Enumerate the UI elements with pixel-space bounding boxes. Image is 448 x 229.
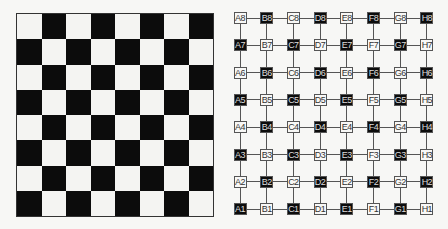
graph-node: E6 bbox=[340, 67, 353, 79]
graph-node: D1 bbox=[314, 203, 327, 215]
board-square bbox=[140, 191, 165, 216]
graph-node: H2 bbox=[420, 176, 433, 188]
graph-node: F1 bbox=[367, 203, 380, 215]
board-square bbox=[42, 14, 67, 39]
graph-node: A8 bbox=[234, 12, 247, 24]
graph-node: F6 bbox=[367, 67, 380, 79]
board-square bbox=[115, 166, 140, 191]
graph-node: F4 bbox=[367, 121, 380, 133]
board-square bbox=[140, 166, 165, 191]
board-square bbox=[164, 191, 189, 216]
graph-node: B4 bbox=[260, 121, 273, 133]
board-square bbox=[66, 39, 91, 64]
board-square bbox=[164, 14, 189, 39]
board-square bbox=[115, 39, 140, 64]
graph-node: D4 bbox=[314, 121, 327, 133]
graph-node: A7 bbox=[234, 39, 247, 51]
graph-node: F8 bbox=[367, 12, 380, 24]
board-square bbox=[140, 65, 165, 90]
board-square bbox=[189, 115, 214, 140]
board-square bbox=[189, 140, 214, 165]
board-square bbox=[91, 90, 116, 115]
graph-node: B6 bbox=[260, 67, 273, 79]
graph-node: B5 bbox=[260, 94, 273, 106]
graph-node: G4 bbox=[394, 121, 407, 133]
board-square bbox=[91, 115, 116, 140]
board-square bbox=[42, 115, 67, 140]
graph-node: F3 bbox=[367, 149, 380, 161]
graph-node: C1 bbox=[287, 203, 300, 215]
board-square bbox=[164, 65, 189, 90]
graph-node: F7 bbox=[367, 39, 380, 51]
graph-node: C8 bbox=[287, 12, 300, 24]
board-square bbox=[91, 166, 116, 191]
graph-node: F2 bbox=[367, 176, 380, 188]
board-square bbox=[66, 14, 91, 39]
graph-node: D8 bbox=[314, 12, 327, 24]
graph-node: B7 bbox=[260, 39, 273, 51]
board-square bbox=[189, 14, 214, 39]
graph-node: E7 bbox=[340, 39, 353, 51]
graph-node: H1 bbox=[420, 203, 433, 215]
graph-node: C5 bbox=[287, 94, 300, 106]
graph-node: C6 bbox=[287, 67, 300, 79]
board-square bbox=[17, 140, 42, 165]
board-square bbox=[91, 191, 116, 216]
graph-node: G2 bbox=[394, 176, 407, 188]
graph-node: A5 bbox=[234, 94, 247, 106]
graph-node: B2 bbox=[260, 176, 273, 188]
board-square bbox=[140, 90, 165, 115]
graph-node: G1 bbox=[394, 203, 407, 215]
board-square bbox=[189, 39, 214, 64]
board-square bbox=[115, 90, 140, 115]
board-square bbox=[42, 65, 67, 90]
graph-node: E4 bbox=[340, 121, 353, 133]
board-square bbox=[42, 39, 67, 64]
board-square bbox=[42, 166, 67, 191]
graph-node: E1 bbox=[340, 203, 353, 215]
board-square bbox=[164, 140, 189, 165]
graph-node: H4 bbox=[420, 121, 433, 133]
board-square bbox=[17, 65, 42, 90]
graph-node: H7 bbox=[420, 39, 433, 51]
graph-node: G7 bbox=[394, 39, 407, 51]
graph-node: G8 bbox=[394, 12, 407, 24]
chessboard bbox=[16, 13, 214, 217]
board-square bbox=[17, 14, 42, 39]
graph-node: D6 bbox=[314, 67, 327, 79]
grid-graph: A8B8C8D8E8F8G8H8A7B7C7D7E7F7G7H7A6B6C6D6… bbox=[224, 0, 448, 229]
board-square bbox=[91, 65, 116, 90]
graph-node: E8 bbox=[340, 12, 353, 24]
board-square bbox=[189, 166, 214, 191]
graph-node: A3 bbox=[234, 149, 247, 161]
board-square bbox=[140, 115, 165, 140]
board-square bbox=[42, 140, 67, 165]
board-square bbox=[189, 65, 214, 90]
graph-node: C7 bbox=[287, 39, 300, 51]
graph-node: E5 bbox=[340, 94, 353, 106]
graph-node: A4 bbox=[234, 121, 247, 133]
board-square bbox=[66, 65, 91, 90]
graph-node: F5 bbox=[367, 94, 380, 106]
board-square bbox=[164, 39, 189, 64]
graph-node: G6 bbox=[394, 67, 407, 79]
graph-node: G5 bbox=[394, 94, 407, 106]
board-square bbox=[17, 39, 42, 64]
graph-node: D5 bbox=[314, 94, 327, 106]
graph-node: A1 bbox=[234, 203, 247, 215]
graph-node: E3 bbox=[340, 149, 353, 161]
board-square bbox=[140, 39, 165, 64]
graph-node: D2 bbox=[314, 176, 327, 188]
board-square bbox=[91, 140, 116, 165]
board-square bbox=[140, 140, 165, 165]
graph-node: E2 bbox=[340, 176, 353, 188]
board-square bbox=[140, 14, 165, 39]
graph-node: D3 bbox=[314, 149, 327, 161]
board-square bbox=[115, 115, 140, 140]
graph-node: H8 bbox=[420, 12, 433, 24]
board-square bbox=[66, 140, 91, 165]
board-square bbox=[17, 115, 42, 140]
board-square bbox=[164, 166, 189, 191]
graph-node: A2 bbox=[234, 176, 247, 188]
board-square bbox=[115, 65, 140, 90]
